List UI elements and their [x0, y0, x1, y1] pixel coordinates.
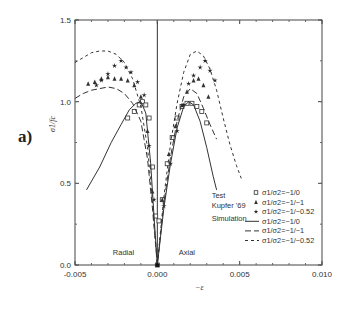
x-tick-label: 0.000: [147, 270, 168, 279]
square-marker: [144, 103, 148, 107]
star-legend-icon: [254, 209, 259, 214]
square-legend-icon: [254, 191, 258, 195]
chart-plot: -0.0050.0000.0050.0100.00.51.01.5 Radial…: [0, 0, 351, 309]
star-marker: [118, 58, 123, 63]
simulation-curve: [87, 102, 217, 265]
triangle-marker: [113, 76, 117, 81]
annotation-text: Axial: [179, 248, 196, 257]
x-tick-label: -0.005: [64, 270, 87, 279]
annotation-text: Kupfer '69: [212, 201, 246, 210]
star-marker: [123, 65, 128, 70]
legend-label: σ1/σ2=−1/−0.52: [262, 236, 314, 245]
square-marker: [200, 109, 204, 113]
legend-label: σ1/σ2=−1/−1: [262, 226, 304, 235]
chart-legend: σ1/σ2=−1/0σ1/σ2=−1/−1σ1/σ2=−1/−0.52σ1/σ2…: [245, 188, 314, 245]
triangle-marker: [106, 75, 110, 80]
simulation-curve: [75, 51, 241, 265]
star-marker: [112, 63, 117, 68]
triangle-marker: [119, 76, 123, 81]
legend-label: σ1/σ2=−1/−0.52: [262, 207, 314, 216]
triangle-marker: [126, 78, 130, 83]
star-marker: [197, 65, 202, 70]
legend-label: σ1/σ2=−1/0: [262, 217, 300, 226]
origin-point: [155, 263, 159, 267]
triangle-marker: [192, 78, 196, 83]
star-marker: [142, 92, 147, 97]
x-tick-label: 0.010: [312, 270, 333, 279]
annotation-text: Radial: [113, 248, 135, 257]
y-tick-label: 0.5: [60, 179, 72, 188]
triangle-marker: [139, 94, 143, 99]
plot-series: [75, 51, 241, 267]
annotation-text: Test: [212, 191, 227, 200]
square-marker: [126, 116, 130, 120]
triangle-marker: [93, 80, 97, 85]
x-tick-label: 0.005: [230, 270, 251, 279]
square-marker: [147, 116, 151, 120]
triangle-marker: [197, 76, 201, 81]
legend-label: σ1/σ2=−1/0: [262, 188, 300, 197]
y-tick-label: 0.0: [60, 261, 72, 270]
square-marker: [195, 105, 199, 109]
star-marker: [135, 79, 140, 84]
legend-label: σ1/σ2=−1/−1: [262, 198, 304, 207]
star-marker: [186, 81, 191, 86]
triangle-legend-icon: [254, 200, 258, 204]
triangle-marker: [206, 94, 210, 99]
triangle-marker: [201, 83, 205, 88]
y-tick-label: 1.5: [60, 16, 72, 25]
square-marker: [157, 219, 161, 223]
y-tick-label: 1.0: [60, 98, 72, 107]
star-marker: [191, 73, 196, 78]
annotation-text: Simulation: [212, 214, 247, 223]
star-marker: [99, 78, 104, 83]
triangle-marker: [86, 81, 90, 86]
plot-annotations: RadialAxialTestKupfer '69Simulation: [113, 191, 247, 257]
square-marker: [205, 121, 209, 125]
